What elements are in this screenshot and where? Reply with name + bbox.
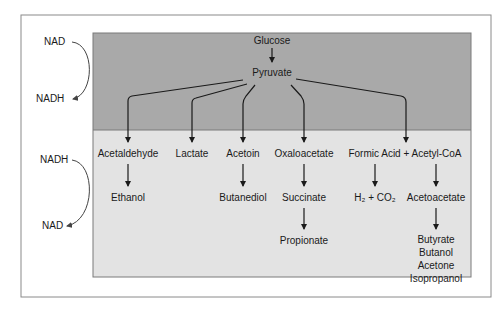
cofactor-nad-upper: NAD [44,36,65,47]
cofactor-nadh-upper: NADH [36,93,64,104]
node-pyruvate: Pyruvate [252,67,292,78]
node-glucose: Glucose [254,35,291,46]
node-acetoacetate: Acetoacetate [407,192,466,203]
cofactor-nadh-lower: NADH [40,154,68,165]
node-formic-acid-acetyl-coa: Formic Acid + Acetyl-CoA [348,148,461,159]
fermentation-pathway-diagram: NAD NADH NADH NAD Glucose Pyruvate Aceta… [0,0,501,328]
node-propionate: Propionate [280,235,329,246]
node-butanol: Butanol [419,247,453,258]
node-lactate: Lactate [176,148,209,159]
node-ethanol: Ethanol [111,192,145,203]
cofactor-nad-lower: NAD [42,220,63,231]
node-butyrate: Butyrate [417,234,455,245]
node-oxaloacetate: Oxaloacetate [275,148,334,159]
node-butanediol: Butanediol [219,192,266,203]
node-h2-co2: H₂ + CO₂ [354,192,396,203]
node-acetaldehyde: Acetaldehyde [98,148,159,159]
node-isopropanol: Isopropanol [410,273,462,284]
node-succinate: Succinate [282,192,326,203]
glycolysis-panel [93,33,471,130]
node-acetone: Acetone [418,260,455,271]
node-acetoin: Acetoin [226,148,259,159]
